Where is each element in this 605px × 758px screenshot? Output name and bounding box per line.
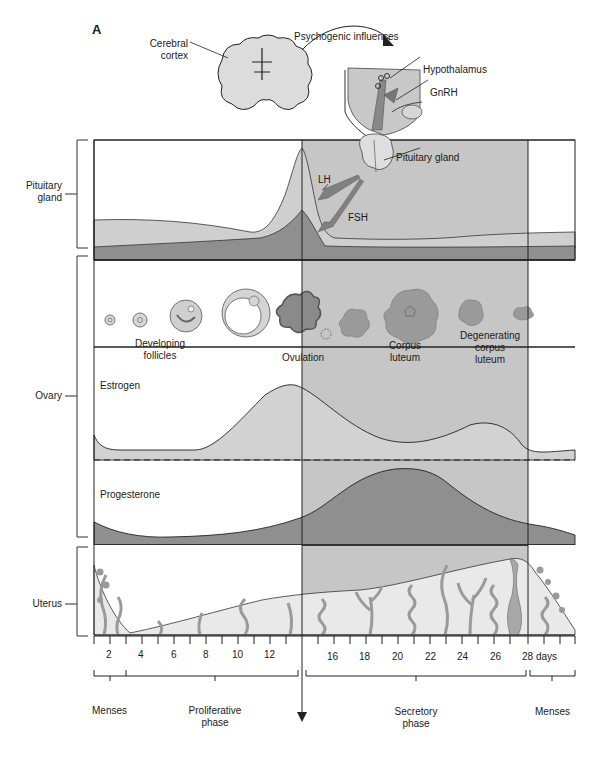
tick-18: 18 — [359, 651, 370, 663]
tick-22: 22 — [425, 651, 436, 663]
tick-6: 6 — [171, 649, 177, 661]
fsh-label: FSH — [348, 212, 368, 224]
follicle-3 — [170, 300, 202, 332]
psychogenic-label: Psychogenic influences — [294, 31, 399, 43]
corpus-luteum-label: Corpus luteum — [370, 340, 440, 364]
degenerating-corpus-luteum-label: Degenerating corpus luteum — [450, 330, 530, 366]
tick-20: 20 — [392, 651, 403, 663]
lh-label: LH — [318, 174, 331, 186]
tick-12: 12 — [264, 649, 275, 661]
tick-4: 4 — [138, 649, 144, 661]
tick-28-days: 28 days — [522, 651, 557, 663]
follicle-2 — [133, 313, 147, 327]
gnrh-label: GnRH — [430, 87, 458, 99]
phase-brackets — [94, 670, 575, 681]
estrogen-label: Estrogen — [100, 380, 140, 392]
proliferative-phase-label: Proliferative phase — [180, 705, 250, 729]
hypothalamus-illustration — [345, 57, 428, 140]
hypothalamus-label: Hypothalamus — [423, 64, 487, 76]
day-axis — [94, 636, 575, 644]
menstrual-cycle-diagram — [0, 0, 605, 758]
follicle-1 — [105, 315, 115, 325]
menses-left-label: Menses — [92, 705, 127, 717]
ruptured-follicle — [276, 291, 320, 332]
tick-10: 10 — [232, 649, 243, 661]
cerebral-cortex-label: Cerebral cortex — [132, 38, 188, 62]
menses-right-label: Menses — [535, 706, 570, 718]
section-label-pituitary: Pituitary gland — [6, 180, 62, 204]
secretory-phase-label: Secretory phase — [381, 706, 451, 730]
tick-16: 16 — [327, 651, 338, 663]
section-brackets — [65, 140, 88, 636]
panel-letter: A — [92, 22, 101, 37]
pituitary-gland-label: Pituitary gland — [396, 152, 459, 164]
developing-follicles-label: Developing follicles — [120, 338, 200, 362]
ovulation-arrow-icon — [297, 712, 307, 722]
tick-2: 2 — [106, 649, 112, 661]
corpus-albicans — [513, 307, 533, 320]
tick-26: 26 — [490, 651, 501, 663]
ovulation-label: Ovulation — [268, 352, 338, 364]
section-label-uterus: Uterus — [6, 598, 62, 610]
progesterone-label: Progesterone — [100, 489, 160, 501]
section-label-ovary: Ovary — [6, 390, 62, 402]
degenerating-corpus-luteum — [459, 300, 484, 326]
tick-8: 8 — [203, 649, 209, 661]
tick-24: 24 — [457, 651, 468, 663]
